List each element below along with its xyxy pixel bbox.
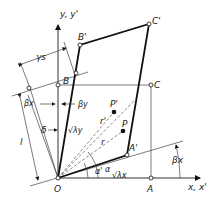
label-P: P xyxy=(122,119,128,129)
point-P-prime xyxy=(112,110,117,115)
point-P xyxy=(121,129,126,134)
label-alpha: α xyxy=(105,165,111,174)
label-sqrt-lambda-x: √λx xyxy=(112,171,127,180)
label-P-prime: P' xyxy=(110,99,118,109)
point-B xyxy=(56,83,60,87)
point-B-prime xyxy=(78,43,82,47)
label-alpha-prime: α' xyxy=(95,167,102,176)
gamma-extension-left xyxy=(20,62,30,88)
point-left-intersection xyxy=(27,86,31,90)
gamma-extension-right xyxy=(64,42,75,75)
point-A xyxy=(149,176,153,180)
label-B-prime: B' xyxy=(78,32,87,42)
label-beta-x: βx xyxy=(23,99,34,108)
label-O: O xyxy=(54,184,61,194)
label-r-prime: r' xyxy=(100,116,106,126)
label-gamma-s: γs xyxy=(36,52,46,62)
x-axis-label: x, x' xyxy=(187,182,207,192)
point-A-prime xyxy=(125,153,129,157)
label-C: C xyxy=(154,80,161,90)
deformation-diagram: y, y' x, x' O A C B A' C' B' P P' γs βx … xyxy=(0,0,218,198)
point-O xyxy=(56,176,60,180)
dimension-l xyxy=(20,97,38,180)
point-C-prime xyxy=(147,22,151,26)
diagram-canvas: y, y' x, x' O A C B A' C' B' P P' γs βx … xyxy=(0,0,218,198)
label-r: r xyxy=(101,137,106,147)
label-C-prime: C' xyxy=(152,16,161,26)
rotated-top-reference-line xyxy=(12,72,88,96)
y-axis-label: y, y' xyxy=(59,9,78,19)
label-beta-y: βy xyxy=(77,100,88,109)
label-l: l xyxy=(20,137,23,147)
point-C xyxy=(149,83,153,87)
label-sqrt-lambda-y: √λy xyxy=(68,126,83,135)
label-delta: δ xyxy=(41,125,47,135)
alpha-arc xyxy=(84,163,88,178)
label-A-prime: A' xyxy=(128,143,138,153)
label-A: A xyxy=(146,184,153,194)
point-intersection xyxy=(74,71,78,75)
label-beta-x-right: βx xyxy=(171,155,184,165)
label-B: B xyxy=(63,76,69,86)
